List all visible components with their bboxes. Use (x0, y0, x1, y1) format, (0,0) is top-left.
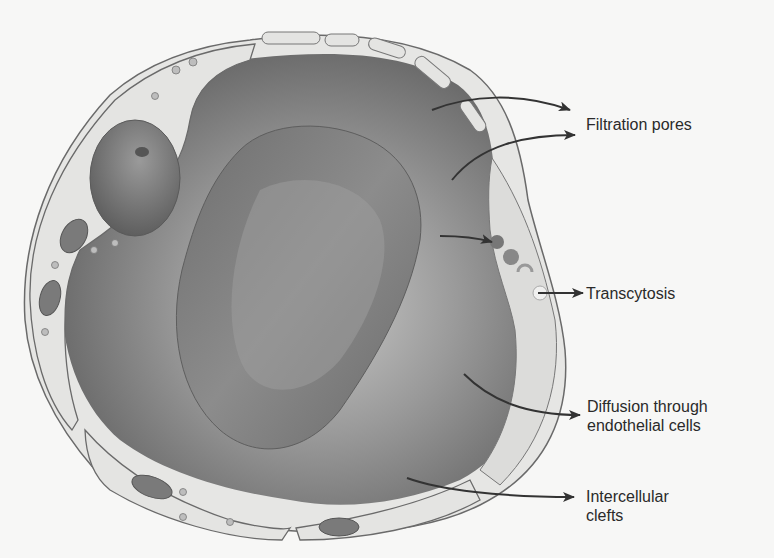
label-filtration-pores: Filtration pores (586, 115, 692, 134)
label-text: endothelial cells (587, 416, 708, 435)
label-text: Transcytosis (586, 284, 675, 303)
label-diffusion: Diffusion through endothelial cells (587, 397, 708, 435)
label-text: Filtration pores (586, 115, 692, 134)
label-text: clefts (586, 506, 669, 525)
nucleolus (135, 147, 149, 157)
label-transcytosis: Transcytosis (586, 284, 675, 303)
endothelial-segment (325, 34, 359, 46)
endothelial-segment (262, 32, 320, 44)
capillary-diagram (0, 0, 774, 558)
label-text: Diffusion through (587, 397, 708, 416)
label-intercellular-clefts: Intercellular clefts (586, 487, 669, 525)
label-text: Intercellular (586, 487, 669, 506)
endothelial-nucleus (90, 120, 180, 236)
